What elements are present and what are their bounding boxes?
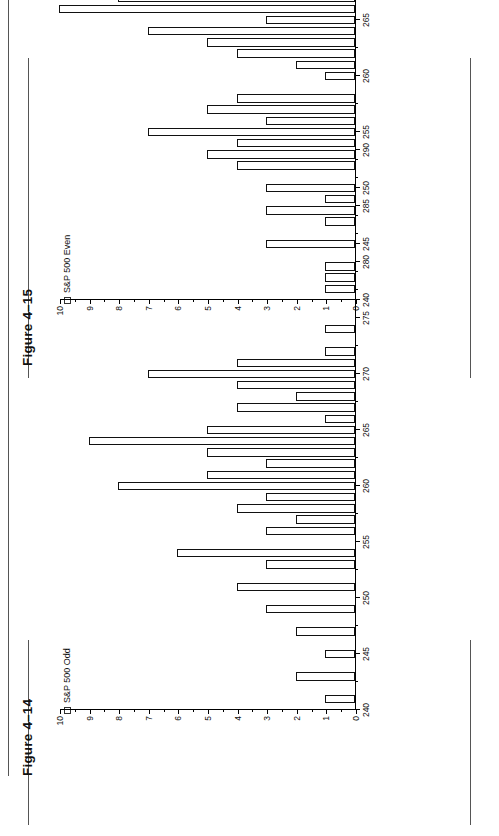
histogram-bar bbox=[266, 459, 355, 468]
value-axis-minor-tick bbox=[134, 710, 135, 712]
category-axis-label: 280 bbox=[361, 255, 371, 269]
category-axis-minor-tick bbox=[356, 47, 358, 48]
category-axis bbox=[355, 150, 356, 710]
histogram-bar bbox=[118, 0, 355, 2]
value-axis-label: 4 bbox=[233, 716, 243, 721]
value-axis-label: 10 bbox=[55, 716, 65, 725]
value-axis-tick bbox=[178, 710, 179, 714]
histogram-bar bbox=[296, 392, 355, 401]
histogram-bar bbox=[266, 560, 355, 569]
histogram-bar bbox=[177, 549, 355, 558]
histogram-bar bbox=[325, 650, 355, 659]
figure-header-rule bbox=[8, 136, 9, 776]
value-axis-minor-tick bbox=[341, 710, 342, 712]
histogram-bar bbox=[296, 672, 355, 681]
value-axis-label: 1 bbox=[321, 716, 331, 721]
category-axis-label: 260 bbox=[361, 69, 371, 83]
category-axis-label: 275 bbox=[361, 311, 371, 325]
category-axis-tick bbox=[356, 597, 360, 598]
histogram-bar bbox=[325, 695, 355, 704]
histogram-bar bbox=[237, 381, 355, 390]
histogram-bar bbox=[207, 471, 355, 480]
category-axis-minor-tick bbox=[356, 289, 358, 290]
histogram-bar bbox=[207, 448, 355, 457]
histogram-bar bbox=[237, 403, 355, 412]
value-axis-tick bbox=[326, 710, 327, 714]
category-axis-label: 250 bbox=[361, 591, 371, 605]
category-axis-tick bbox=[356, 19, 360, 20]
value-axis-minor-tick bbox=[312, 710, 313, 712]
histogram-bar bbox=[325, 72, 355, 81]
category-axis-minor-tick bbox=[356, 401, 358, 402]
histogram-bar bbox=[59, 5, 355, 14]
histogram-bar bbox=[237, 359, 355, 368]
histogram-bar bbox=[296, 515, 355, 524]
category-axis-minor-tick bbox=[356, 345, 358, 346]
page-rule-top-right bbox=[470, 58, 471, 378]
category-axis-minor-tick bbox=[356, 625, 358, 626]
category-axis-tick bbox=[356, 709, 360, 710]
category-axis-label: 260 bbox=[361, 479, 371, 493]
value-axis-tick bbox=[297, 710, 298, 714]
category-axis-tick bbox=[356, 75, 360, 76]
histogram-bar bbox=[237, 583, 355, 592]
histogram-bar bbox=[266, 605, 355, 614]
histogram-bar bbox=[118, 482, 355, 491]
value-axis-minor-tick bbox=[104, 710, 105, 712]
category-axis-tick bbox=[356, 485, 360, 486]
category-axis-minor-tick bbox=[356, 569, 358, 570]
category-axis-label: 240 bbox=[361, 703, 371, 717]
value-axis-tick bbox=[60, 710, 61, 714]
value-axis-tick bbox=[356, 710, 357, 714]
value-axis-tick bbox=[90, 710, 91, 714]
histogram-bar bbox=[325, 415, 355, 424]
value-axis-label: 8 bbox=[114, 716, 124, 721]
value-axis-label: 6 bbox=[173, 716, 183, 721]
value-axis-minor-tick bbox=[164, 710, 165, 712]
value-axis-tick bbox=[267, 710, 268, 714]
value-axis-tick bbox=[208, 710, 209, 714]
value-axis-label: 3 bbox=[262, 716, 272, 721]
category-axis-minor-tick bbox=[356, 681, 358, 682]
histogram-bar bbox=[325, 347, 355, 356]
category-axis-minor-tick bbox=[356, 233, 358, 234]
category-axis-tick bbox=[356, 205, 360, 206]
value-axis-label: 9 bbox=[85, 716, 95, 721]
value-axis-tick bbox=[119, 710, 120, 714]
histogram-bar bbox=[89, 437, 355, 446]
histogram-bar bbox=[325, 325, 355, 334]
value-axis-minor-tick bbox=[75, 710, 76, 712]
value-axis-tick bbox=[149, 710, 150, 714]
category-axis-tick bbox=[356, 653, 360, 654]
histogram-bar bbox=[237, 49, 355, 58]
histogram-bar bbox=[296, 61, 355, 70]
value-axis-label: 2 bbox=[292, 716, 302, 721]
histogram-bar bbox=[237, 504, 355, 513]
figure-4-14: Figure 4–14 S&P 500 Odd 0123456789102402… bbox=[4, 90, 404, 830]
value-axis-minor-tick bbox=[193, 710, 194, 712]
histogram-bar bbox=[148, 370, 355, 379]
histogram-bar bbox=[148, 27, 355, 36]
category-axis-label: 245 bbox=[361, 647, 371, 661]
category-axis-label: 270 bbox=[361, 367, 371, 381]
category-axis-tick bbox=[356, 373, 360, 374]
category-axis-label: 285 bbox=[361, 199, 371, 213]
category-axis-label: 290 bbox=[361, 143, 371, 157]
histogram-bar bbox=[266, 16, 355, 25]
value-axis-minor-tick bbox=[252, 710, 253, 712]
value-axis-label: 0 bbox=[351, 716, 361, 721]
value-axis-label: 5 bbox=[203, 716, 213, 721]
histogram-bar bbox=[296, 627, 355, 636]
value-axis-minor-tick bbox=[282, 710, 283, 712]
category-axis-tick bbox=[356, 317, 360, 318]
category-axis-minor-tick bbox=[356, 457, 358, 458]
histogram-bar bbox=[207, 426, 355, 435]
category-axis-tick bbox=[356, 541, 360, 542]
category-axis-label: 255 bbox=[361, 535, 371, 549]
value-axis-minor-tick bbox=[223, 710, 224, 712]
value-axis-label: 7 bbox=[144, 716, 154, 721]
value-axis-tick bbox=[238, 710, 239, 714]
histogram-bar bbox=[207, 38, 355, 47]
category-axis-tick bbox=[356, 149, 360, 150]
category-axis-tick bbox=[356, 261, 360, 262]
